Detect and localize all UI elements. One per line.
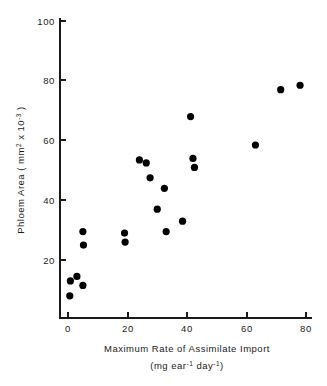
y-tick-label-40: 40 — [43, 195, 55, 206]
y-axis-title-mid: x 10 — [15, 120, 26, 143]
x-tick-label-40: 40 — [181, 323, 193, 334]
plot-canvas: 100 80 60 40 20 0 20 40 60 80 Phloem Are… — [0, 0, 327, 386]
data-point — [121, 230, 128, 237]
x-tick-label-0: 0 — [65, 323, 71, 334]
x-units-sup-1: -1 — [187, 360, 194, 367]
x-tick-label-20: 20 — [122, 323, 134, 334]
data-point — [122, 238, 129, 245]
y-tick-label-20: 20 — [43, 255, 55, 266]
y-tick-label-60: 60 — [43, 135, 55, 146]
y-axis-title-sup-exp: -3 — [15, 113, 22, 120]
data-point — [143, 159, 150, 166]
x-tick-label-60: 60 — [241, 323, 253, 334]
x-units-mid: day — [193, 360, 213, 371]
data-point — [252, 141, 259, 148]
data-point — [187, 113, 194, 120]
x-tick-label-80: 80 — [300, 323, 312, 334]
data-point — [79, 282, 86, 289]
data-point — [163, 228, 170, 235]
x-units-sup-2: -1 — [213, 360, 220, 367]
y-axis-title: Phloem Area ( mm2 x 10-3 ) — [15, 106, 27, 234]
x-axis-title: Maximum Rate of Assimilate Import — [104, 343, 270, 354]
data-point — [67, 277, 74, 284]
data-point — [147, 174, 154, 181]
data-point — [161, 185, 168, 192]
data-point — [189, 155, 196, 162]
data-point — [154, 206, 161, 213]
data-point — [191, 164, 198, 171]
svg-text:Phloem Area ( mm2 x 10-3 ): Phloem Area ( mm2 x 10-3 ) — [15, 106, 27, 234]
data-point — [179, 218, 186, 225]
y-tick-label-80: 80 — [43, 75, 55, 86]
data-point — [296, 82, 303, 89]
plot-background — [0, 0, 327, 386]
data-point — [136, 156, 143, 163]
data-point — [66, 292, 73, 299]
y-tick-label-100: 100 — [37, 16, 55, 27]
scatter-plot-figure: 100 80 60 40 20 0 20 40 60 80 Phloem Are… — [0, 0, 327, 386]
x-units-open: (mg ear — [150, 360, 186, 371]
data-point — [80, 241, 87, 248]
y-axis-title-main: Phloem Area ( mm — [15, 147, 26, 234]
data-point — [79, 228, 86, 235]
x-units-close: ) — [220, 360, 224, 371]
data-point — [73, 273, 80, 280]
data-point — [277, 86, 284, 93]
y-axis-title-close: ) — [15, 106, 26, 113]
